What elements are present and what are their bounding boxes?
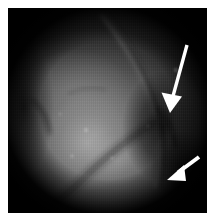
upper-annotation-arrow	[162, 45, 188, 113]
figure-root	[0, 0, 213, 222]
lower-annotation-arrow	[167, 157, 199, 181]
annotation-arrow-layer	[8, 8, 207, 213]
endoscopic-image-plate	[8, 8, 207, 213]
